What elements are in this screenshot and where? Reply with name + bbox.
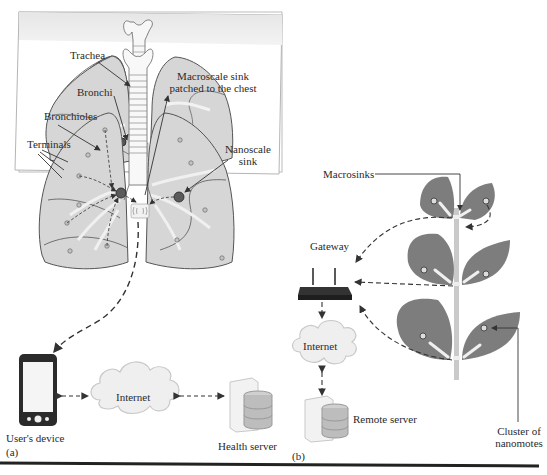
- users-device-icon: [19, 354, 57, 426]
- caption-b: (b): [292, 450, 305, 462]
- label-nanoscale-sink: Nanoscale sink: [220, 143, 276, 167]
- label-cluster-of-nanomotes: Cluster of nanomotes: [484, 425, 547, 449]
- label-remote-server: Remote server: [353, 413, 417, 425]
- macroscale-sink-icon: [131, 204, 149, 218]
- gateway-router-icon: [298, 268, 352, 300]
- plant-illustration: [397, 177, 520, 380]
- label-bronchi: Bronchi: [77, 86, 112, 98]
- caption-a: (a): [6, 446, 18, 458]
- remote-server-icon: [305, 396, 348, 442]
- label-gateway: Gateway: [310, 240, 349, 252]
- label-health-server: Health server: [218, 440, 277, 452]
- label-macrosinks: Macrosinks: [323, 168, 374, 180]
- bottom-rule: [0, 463, 539, 466]
- label-trachea: Trachea: [70, 49, 105, 61]
- label-internet-a: Internet: [116, 391, 150, 403]
- nanoscale-sink-left-icon: [116, 188, 126, 198]
- internet-cloud-a-icon: [91, 362, 179, 414]
- nanoscale-sink-right-icon: [174, 192, 184, 202]
- label-bronchioles: Bronchioles: [44, 110, 97, 122]
- label-users-device: User's device: [6, 432, 65, 444]
- label-terminals: Terminals: [27, 138, 71, 150]
- health-server-icon: [230, 378, 272, 432]
- label-macroscale-sink: Macroscale sink patched to the chest: [168, 70, 258, 94]
- label-internet-b: Internet: [303, 340, 337, 352]
